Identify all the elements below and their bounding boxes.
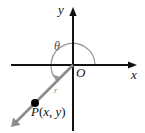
- point-p-name: P: [31, 104, 39, 119]
- radius-r-label: r: [54, 86, 58, 95]
- angle-diagram-figure: y x O θ r P(x, y): [0, 0, 145, 133]
- y-axis-arrowhead: [69, 7, 76, 16]
- point-p-label: P(x, y): [31, 105, 66, 118]
- point-close-paren: ): [61, 104, 65, 119]
- x-axis-label: x: [131, 68, 137, 81]
- y-axis-label: y: [58, 3, 64, 16]
- angle-theta-label: θ: [54, 40, 60, 52]
- coordinate-plane-graphic: [0, 0, 145, 133]
- origin-label: O: [76, 66, 85, 79]
